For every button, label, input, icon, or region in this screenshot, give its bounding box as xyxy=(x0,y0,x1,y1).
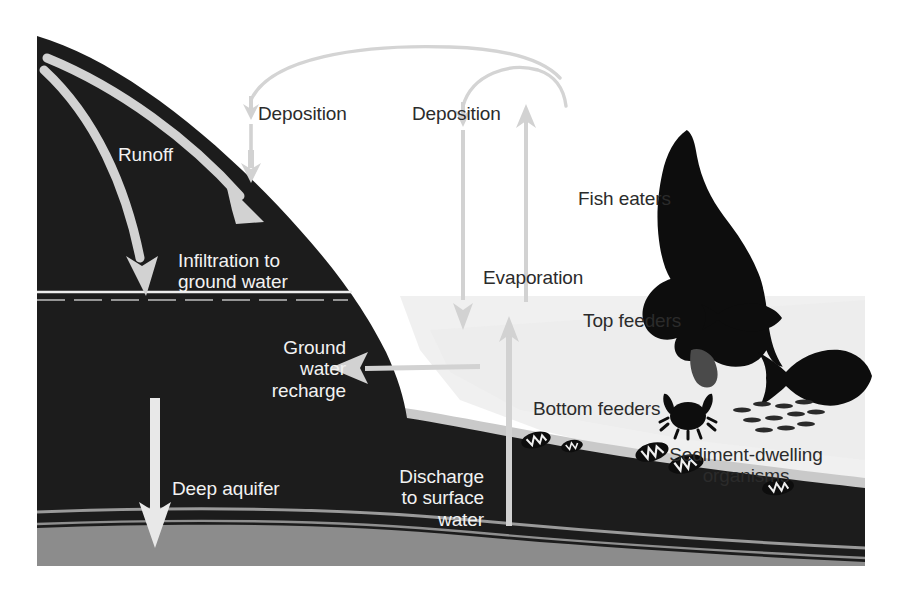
crab-body xyxy=(670,402,706,430)
deep-aquifer-shaft xyxy=(150,398,160,512)
diagram-canvas: Runoff Infiltration to ground water Depo… xyxy=(0,0,903,598)
evaporation-arrow xyxy=(516,104,536,302)
arc-left-long xyxy=(251,47,560,100)
hydrologic-diagram-svg xyxy=(0,0,903,598)
atmospheric-transport-arc xyxy=(251,47,566,106)
deposition-left-arrow xyxy=(241,96,261,183)
deposition-right-shaft xyxy=(461,130,465,300)
deposition-left-shaft xyxy=(248,150,254,168)
deposition-right-arrow xyxy=(453,102,473,330)
discharge-shaft xyxy=(506,330,512,526)
arc-right-short xyxy=(463,68,566,106)
evaporation-shaft xyxy=(524,118,528,302)
